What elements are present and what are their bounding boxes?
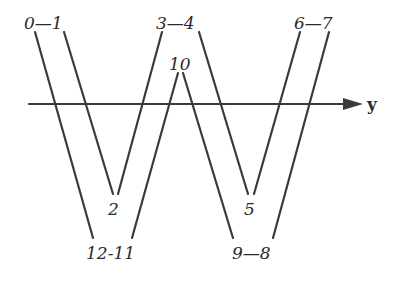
segment-10-to-11 [132,73,178,238]
label-2: 2 [107,199,119,219]
w-path-diagram: y 0—1 3—4 6—7 10 2 5 12-11 9—8 [0,0,398,289]
segment-4-to-5 [199,32,248,194]
segment-2-to-3 [118,32,162,194]
label-5: 5 [244,199,255,219]
label-6-7: 6—7 [294,13,333,33]
segment-5-to-6 [254,32,300,194]
label-9-8: 9—8 [232,243,271,263]
segment-10-to-9 [183,73,233,238]
label-3-4: 3—4 [156,13,195,33]
y-axis-label: y [366,94,378,114]
label-0-1: 0—1 [24,13,63,33]
segment-7-to-8 [273,32,329,238]
label-12-11: 12-11 [86,243,135,263]
segment-0-to-12 [35,32,93,238]
y-axis-arrowhead-icon [343,98,363,110]
label-10: 10 [169,54,191,74]
y-axis: y [29,94,378,114]
segment-1-to-2 [64,32,113,194]
